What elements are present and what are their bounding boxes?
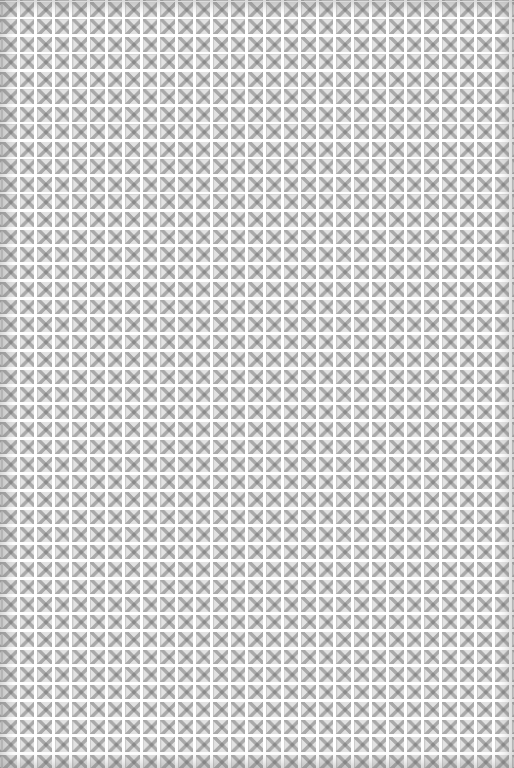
ornamental-tile-pattern xyxy=(0,0,514,768)
scan-edge-shadow xyxy=(0,0,514,768)
